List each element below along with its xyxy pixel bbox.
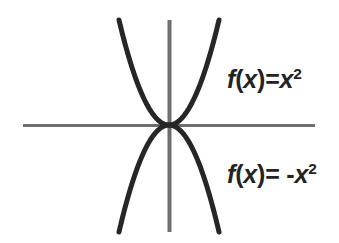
downward-label-f: f: [227, 160, 235, 188]
plot-area: [0, 0, 339, 243]
upward-parabola-label: f(x)=x2: [227, 67, 302, 92]
upward-label-exponent: 2: [293, 65, 301, 82]
upward-label-equals: =: [265, 65, 279, 93]
downward-label-equals: =: [265, 160, 279, 188]
upward-label-variable: x: [243, 65, 257, 93]
upward-label-paren-close: ): [257, 65, 265, 93]
downward-label-paren-close: ): [257, 160, 265, 188]
downward-label-variable: x: [243, 160, 257, 188]
parabola-figure: f(x)=x2 f(x)= -x2: [0, 0, 339, 243]
upward-label-base: x: [280, 65, 294, 93]
downward-parabola-label: f(x)= -x2: [227, 162, 317, 187]
downward-label-base: x: [294, 160, 308, 188]
downward-label-sign: -: [280, 160, 295, 188]
downward-label-exponent: 2: [308, 160, 316, 177]
upward-label-f: f: [227, 65, 235, 93]
